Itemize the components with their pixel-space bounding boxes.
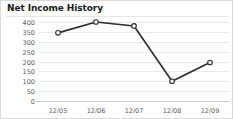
chart-title: Net Income History <box>7 3 103 13</box>
data-point-marker[interactable] <box>132 24 137 29</box>
y-axis-tick-label: 400 <box>23 19 35 27</box>
y-axis-tick-labels: 050100150200250300350400 <box>23 19 35 106</box>
data-series-group <box>58 22 210 81</box>
y-axis-tick-label: 250 <box>23 49 35 57</box>
y-axis-tick-label: 150 <box>23 68 35 76</box>
x-axis-tick-label: 12/07 <box>125 107 144 115</box>
x-axis-tick-label: 12/09 <box>201 107 220 115</box>
y-axis-tick-label: 350 <box>23 29 35 37</box>
data-point-marker[interactable] <box>94 20 99 25</box>
net-income-history-card: Net Income History 050100150200250300350… <box>0 0 233 119</box>
chart-plot-area: 050100150200250300350400 12/0512/0612/07… <box>1 17 233 119</box>
x-axis-tick-label: 12/08 <box>163 107 182 115</box>
y-axis-tick-label: 300 <box>23 39 35 47</box>
gridlines-group <box>39 23 229 92</box>
y-axis-tick-label: 0 <box>31 98 35 106</box>
line-chart: 050100150200250300350400 12/0512/0612/07… <box>1 17 233 119</box>
x-axis-tick-labels: 12/0512/0612/0712/0812/09 <box>49 107 220 115</box>
y-axis-tick-label: 100 <box>23 78 35 86</box>
data-point-marker[interactable] <box>208 60 213 65</box>
y-axis-tick-label: 50 <box>27 88 35 96</box>
x-axis-tick-label: 12/06 <box>87 107 106 115</box>
data-point-marker[interactable] <box>56 31 61 36</box>
data-point-markers-group <box>56 20 213 84</box>
series-line-net-income <box>58 22 210 81</box>
x-axis-tick-label: 12/05 <box>49 107 68 115</box>
y-axis-tick-label: 200 <box>23 59 35 67</box>
data-point-marker[interactable] <box>170 79 175 84</box>
